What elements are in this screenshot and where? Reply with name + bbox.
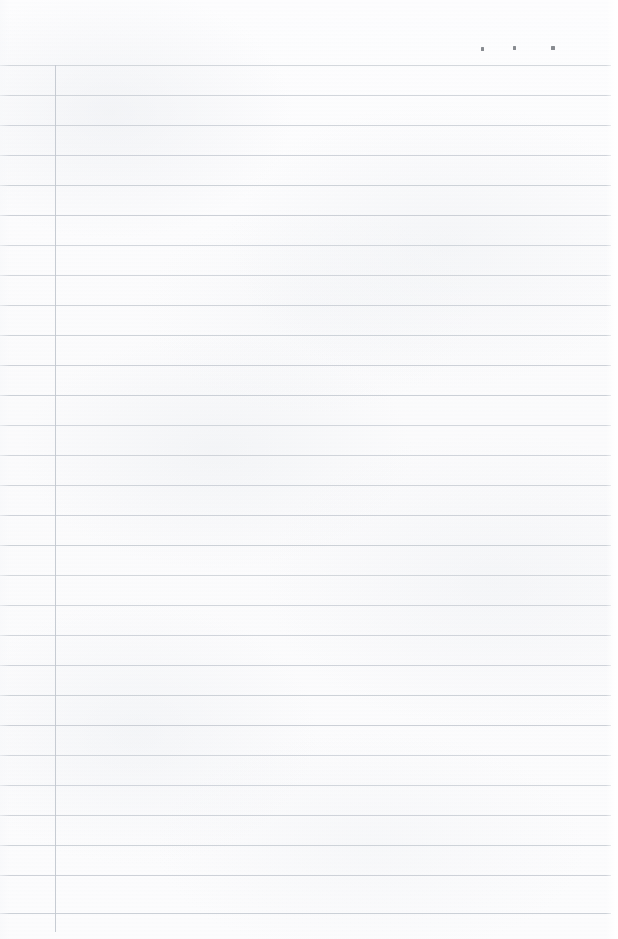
rule-line [0,605,611,606]
rule-line [0,725,611,726]
rule-line [0,875,611,876]
rule-line [0,515,611,516]
rule-line [0,125,611,126]
margin-rule [55,65,56,932]
speck-middle [513,46,516,50]
rule-line [0,185,611,186]
left-edge-shading [0,0,10,939]
paper-grain-texture [0,0,618,939]
speck-left [481,47,484,51]
rule-line [0,425,611,426]
rule-line [0,215,611,216]
rule-line [0,155,611,156]
rule-line [0,395,611,396]
rule-line [0,275,611,276]
rule-line [0,695,611,696]
rule-line [0,815,611,816]
rule-line [0,845,611,846]
notebook-page [0,0,618,939]
rule-line [0,335,611,336]
rule-line [0,365,611,366]
rule-line [0,665,611,666]
rule-line [0,95,611,96]
rule-line [0,785,611,786]
rule-line [0,65,611,66]
rule-line [0,485,611,486]
rule-line [0,575,611,576]
rule-line [0,455,611,456]
rule-line [0,913,611,914]
rule-line [0,305,611,306]
rule-line [0,755,611,756]
speck-right [551,46,555,50]
right-edge-shading [606,0,618,939]
rule-line [0,545,611,546]
rule-line [0,245,611,246]
rule-line [0,635,611,636]
